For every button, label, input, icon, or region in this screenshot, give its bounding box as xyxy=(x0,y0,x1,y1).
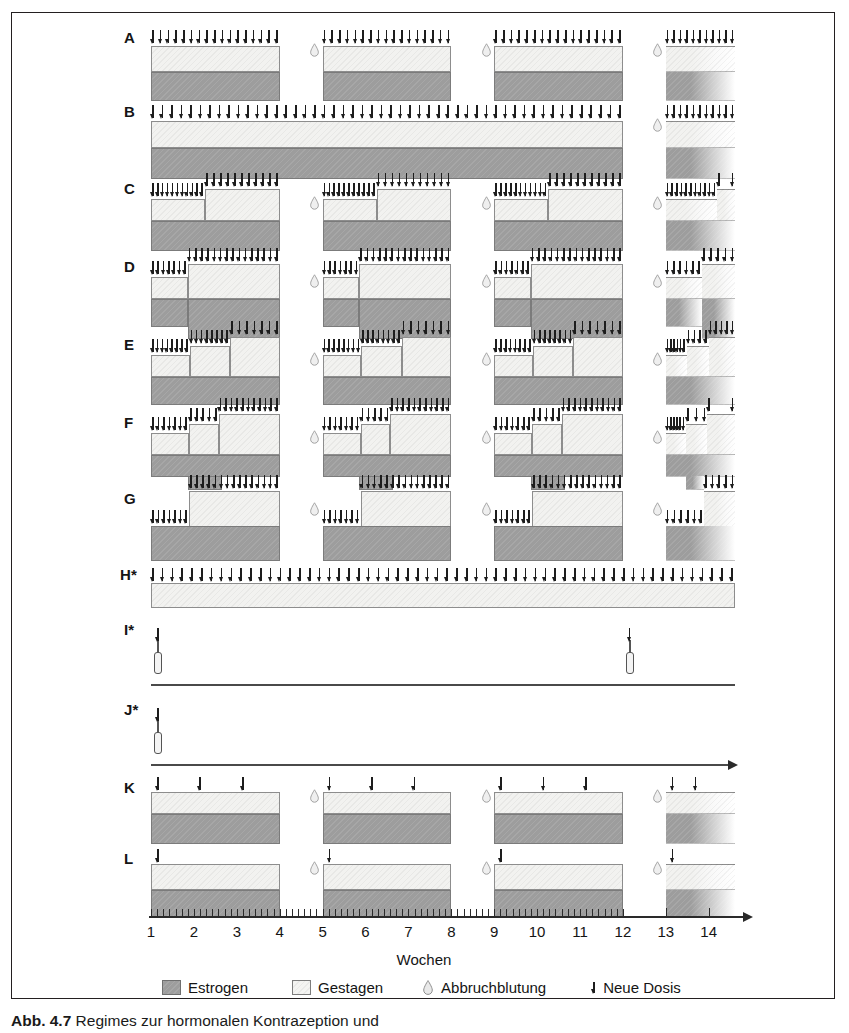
dose-arrow xyxy=(414,777,416,790)
dose-arrows xyxy=(703,248,733,261)
dose-arrows xyxy=(324,261,358,274)
axis-tick xyxy=(605,909,606,917)
dose-arrows xyxy=(324,510,359,523)
gestagen-block xyxy=(666,864,735,890)
dose-arrows xyxy=(191,330,229,343)
estrogen-block xyxy=(151,814,280,844)
gestagen-block xyxy=(230,337,280,377)
dose-arrows xyxy=(705,475,733,488)
row-label-d: D xyxy=(124,259,135,274)
gestagen-block xyxy=(666,277,702,299)
axis-tick xyxy=(580,909,581,917)
dose-arrow xyxy=(371,777,373,790)
dose-arrows xyxy=(152,183,203,196)
dose-arrow xyxy=(157,628,159,641)
dose-arrows xyxy=(152,510,187,523)
axis-tick xyxy=(427,909,428,917)
gestagen-block xyxy=(359,264,451,299)
axis-tick xyxy=(415,909,416,917)
gestagen-block xyxy=(323,433,361,455)
axis-tick xyxy=(200,909,201,917)
estrogen-block xyxy=(686,476,704,490)
axis-tick xyxy=(470,909,471,917)
axis-tick xyxy=(519,909,520,917)
dose-arrow xyxy=(157,708,159,721)
legend-item-abbruchblutung: Abbruchblutung xyxy=(423,979,546,996)
axis-tick-major xyxy=(666,908,667,917)
gestagen-block xyxy=(717,189,735,221)
abbruchblutung-drop-icon xyxy=(482,43,491,57)
gestagen-block xyxy=(377,189,452,221)
dose-arrows xyxy=(667,339,685,352)
gestagen-block xyxy=(494,277,531,299)
gestagen-block xyxy=(494,792,623,814)
dose-arrows xyxy=(667,105,733,118)
estrogen-block xyxy=(151,455,280,477)
dose-arrows xyxy=(231,321,278,334)
estrogen-block xyxy=(494,455,623,477)
dose-arrows xyxy=(152,339,188,352)
legend-item-gestagen: Gestagen xyxy=(292,979,383,996)
dose-arrows xyxy=(190,408,217,421)
row-label-i: I* xyxy=(124,622,134,637)
abbruchblutung-drop-icon xyxy=(482,196,491,210)
abbruchblutung-drop-icon xyxy=(310,274,319,288)
row-baseline xyxy=(151,764,728,766)
axis-week-number: 5 xyxy=(309,923,337,940)
axis-tick xyxy=(384,909,385,917)
estrogen-block xyxy=(666,814,735,844)
abbruchblutung-drop-icon xyxy=(310,430,319,444)
row-label-k: K xyxy=(124,780,135,795)
dose-arrows xyxy=(667,510,702,523)
gestagen-block xyxy=(666,199,717,221)
dose-arrows xyxy=(324,339,360,352)
row-label-j: J* xyxy=(124,702,139,717)
axis-tick xyxy=(267,909,268,917)
axis-week-number: 2 xyxy=(180,923,208,940)
gestagen-block xyxy=(361,424,391,455)
gestagen-block xyxy=(151,583,735,608)
axis-tick xyxy=(249,909,250,917)
axis-tick xyxy=(562,909,563,917)
dose-arrow xyxy=(500,777,502,790)
axis-tick xyxy=(243,909,244,917)
row-label-g: G xyxy=(124,491,136,506)
gestagen-block xyxy=(151,864,280,890)
axis-tick xyxy=(347,909,348,917)
axis-tick xyxy=(574,909,575,917)
legend-label-gestagen: Gestagen xyxy=(318,979,383,996)
axis-tick xyxy=(194,909,195,917)
gestagen-block xyxy=(494,433,532,455)
row-label-h: H* xyxy=(120,567,137,582)
gestagen-block xyxy=(666,355,687,377)
gestagen-block xyxy=(702,264,735,299)
dose-arrows xyxy=(152,568,733,581)
dose-arrows xyxy=(533,475,621,488)
estrogen-block xyxy=(151,72,280,101)
axis-tick xyxy=(513,909,514,917)
dose-arrows xyxy=(495,183,546,196)
axis-tick xyxy=(316,909,317,917)
dose-arrows xyxy=(549,173,621,186)
dose-arrows xyxy=(532,248,621,261)
axis-tick xyxy=(537,909,538,917)
gestagen-block xyxy=(219,414,280,455)
gestagen-block xyxy=(323,199,377,221)
gestagen-block xyxy=(562,414,623,455)
estrogen-block xyxy=(494,221,623,251)
dose-arrows xyxy=(206,173,278,186)
estrogen-block xyxy=(666,455,735,477)
dose-arrows xyxy=(152,105,621,118)
abbruchblutung-drop-icon xyxy=(653,861,662,875)
axis-tick xyxy=(433,909,434,917)
row-label-b: B xyxy=(124,104,135,119)
axis-tick xyxy=(598,909,599,917)
axis-tick xyxy=(182,909,183,917)
gestagen-block xyxy=(323,792,452,814)
dose-arrows xyxy=(718,173,733,186)
gestagen-block xyxy=(323,355,362,377)
gestagen-block xyxy=(704,491,735,531)
estrogen-block xyxy=(666,221,735,251)
gestagen-block xyxy=(532,424,562,455)
gestagen-block xyxy=(686,424,707,455)
